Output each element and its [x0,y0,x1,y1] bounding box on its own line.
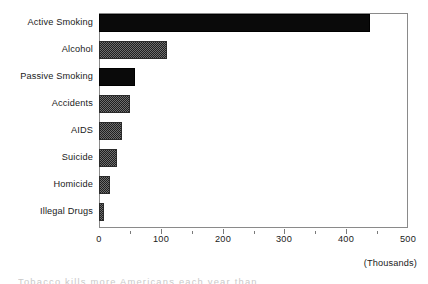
x-axis-units-label: (Thousands) [0,258,417,268]
x-tick-label-400: 400 [338,233,354,245]
bar-suicide [99,149,117,167]
x-tick-label-0: 0 [96,233,101,245]
category-label-suicide: Suicide [0,152,93,162]
bar-aids [99,122,122,140]
bar-passive-smoking [99,68,135,86]
bar-homicide [99,176,110,194]
category-label-homicide: Homicide [0,179,93,189]
x-tick-label-500: 500 [400,233,416,245]
bar-illegal-drugs [99,203,104,221]
category-label-aids: AIDS [0,125,93,135]
x-axis-tick-labels: 0 100 200 300 400 500 [99,233,408,247]
bar-accidents [99,95,130,113]
category-label-accidents: Accidents [0,98,93,108]
bars-layer [99,13,408,228]
bar-chart-figure: Active Smoking Alcohol Passive Smoking A… [0,0,428,284]
category-label-alcohol: Alcohol [0,44,93,54]
x-tick-label-200: 200 [215,233,231,245]
category-label-passive-smoking: Passive Smoking [0,71,93,81]
category-label-active-smoking: Active Smoking [0,17,93,27]
bar-active-smoking [99,14,370,32]
category-axis: Active Smoking Alcohol Passive Smoking A… [0,13,93,228]
category-label-illegal-drugs: Illegal Drugs [0,206,93,216]
figure-caption-fragment: Tobacco kills more Americans each year t… [18,276,410,284]
x-tick-label-300: 300 [276,233,292,245]
bar-alcohol [99,41,167,59]
x-tick-label-100: 100 [153,233,169,245]
